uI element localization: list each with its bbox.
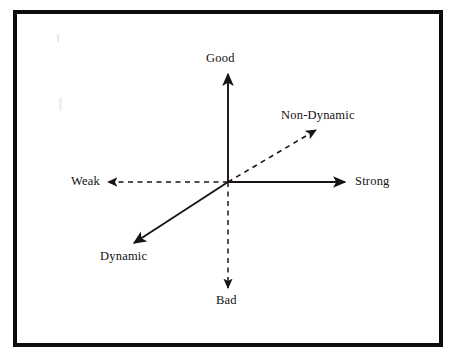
axis-label-good: Good [206,52,235,65]
axis-label-bad: Bad [216,294,237,307]
axis-label-dynamic: Dynamic [100,250,147,263]
scan-artifact-speck [59,98,62,111]
figure-root: Good Non-Dynamic Strong Weak Dynamic Bad [0,0,460,364]
axis-label-weak: Weak [71,175,100,188]
axis-label-strong: Strong [355,175,390,188]
axis-label-non-dynamic: Non-Dynamic [281,109,355,122]
figure-caption-cropped [14,356,314,364]
scan-artifact-speck [57,34,59,42]
